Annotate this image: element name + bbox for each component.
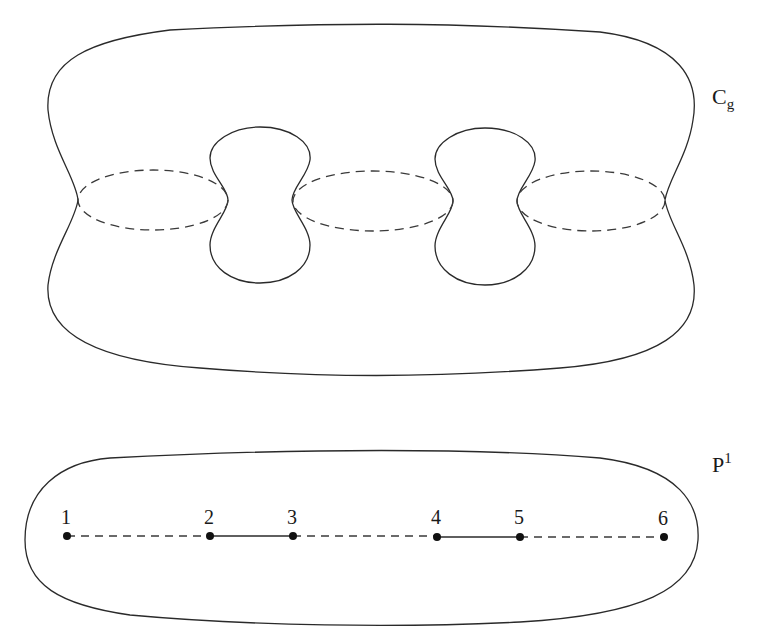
dashed-cycle-middle <box>293 171 453 231</box>
branch-point-5 <box>516 533 524 541</box>
p1-outline <box>25 451 698 626</box>
surface-outline <box>48 24 694 375</box>
hyperelliptic-covering-diagram: Cg 1 2 3 4 5 6 P1 <box>0 0 774 644</box>
point-label-1: 1 <box>61 506 71 528</box>
point-label-4: 4 <box>431 506 441 528</box>
point-label-2: 2 <box>204 506 214 528</box>
hole-1 <box>210 127 310 283</box>
point-label-5: 5 <box>514 506 524 528</box>
branch-point-3 <box>289 532 297 540</box>
branch-point-1 <box>63 532 71 540</box>
surface-label: Cg <box>712 84 735 112</box>
branch-point-4 <box>433 533 441 541</box>
point-label-6: 6 <box>658 507 668 529</box>
branch-point-6 <box>660 533 668 541</box>
branch-point-2 <box>206 532 214 540</box>
line-label: P1 <box>712 450 732 477</box>
surface-cg <box>48 24 694 375</box>
dashed-cycle-right <box>517 171 665 231</box>
dashed-cycle-left <box>78 170 228 230</box>
point-label-3: 3 <box>287 506 297 528</box>
projective-line-p1: 1 2 3 4 5 6 <box>25 451 698 626</box>
hole-2 <box>435 128 535 285</box>
